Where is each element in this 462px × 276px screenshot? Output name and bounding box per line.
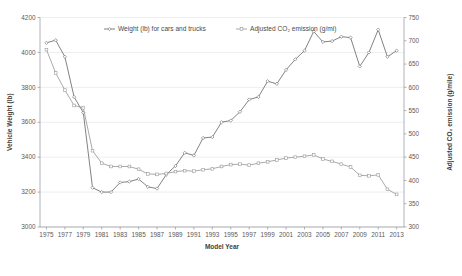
y-tick-label: 4200 bbox=[21, 14, 36, 21]
x-tick-label: 2013 bbox=[390, 231, 405, 238]
data-point-marker bbox=[285, 157, 288, 160]
data-point-marker bbox=[54, 72, 57, 75]
x-tick-label: 1985 bbox=[131, 231, 146, 238]
x-tick-label: 1999 bbox=[261, 231, 276, 238]
data-point-marker bbox=[377, 174, 380, 177]
y2-axis-ticks: 300350400450500550600650700750 bbox=[404, 14, 420, 231]
y2-tick-label: 700 bbox=[409, 37, 420, 44]
data-point-marker bbox=[386, 188, 389, 191]
y2-tick-label: 650 bbox=[409, 60, 420, 67]
x-tick-label: 2007 bbox=[334, 231, 349, 238]
data-point-marker bbox=[220, 165, 223, 168]
data-point-marker bbox=[358, 174, 361, 177]
data-point-marker bbox=[349, 166, 352, 169]
data-point-marker bbox=[165, 172, 168, 175]
legend-label: Adjusted CO₂ emission (g/mi) bbox=[250, 25, 336, 33]
y2-axis-title: Adjusted CO₂ emission (g/mile) bbox=[446, 74, 454, 171]
x-tick-label: 1991 bbox=[187, 231, 202, 238]
data-point-marker bbox=[174, 170, 177, 173]
x-tick-label: 1981 bbox=[95, 231, 110, 238]
data-point-marker bbox=[303, 155, 306, 158]
x-tick-label: 1995 bbox=[224, 231, 239, 238]
data-point-marker bbox=[156, 173, 159, 176]
chart-canvas: 3000320034003600380040004200300350400450… bbox=[0, 0, 462, 276]
data-point-marker bbox=[377, 28, 380, 31]
y-tick-label: 3600 bbox=[21, 118, 36, 125]
x-tick-label: 2005 bbox=[316, 231, 331, 238]
data-point-marker bbox=[239, 163, 242, 166]
data-point-marker bbox=[128, 180, 131, 183]
y-tick-label: 4000 bbox=[21, 49, 36, 56]
y2-tick-label: 500 bbox=[409, 130, 420, 137]
legend-marker bbox=[240, 28, 243, 31]
legend: Weight (lb) for cars and trucksAdjusted … bbox=[104, 25, 336, 33]
data-point-marker bbox=[91, 149, 94, 152]
x-tick-label: 1975 bbox=[39, 231, 54, 238]
data-point-marker bbox=[54, 39, 57, 42]
data-point-marker bbox=[63, 55, 66, 58]
data-point-marker bbox=[100, 190, 103, 193]
y2-tick-label: 550 bbox=[409, 107, 420, 114]
y2-tick-label: 400 bbox=[409, 177, 420, 184]
data-point-marker bbox=[211, 167, 214, 170]
y2-tick-label: 600 bbox=[409, 84, 420, 91]
data-point-marker bbox=[45, 48, 48, 51]
x-tick-label: 1989 bbox=[168, 231, 183, 238]
data-point-marker bbox=[73, 104, 76, 107]
dual-axis-line-chart: 3000320034003600380040004200300350400450… bbox=[0, 0, 462, 276]
x-tick-label: 1979 bbox=[76, 231, 91, 238]
y2-tick-label: 450 bbox=[409, 153, 420, 160]
data-point-marker bbox=[322, 158, 325, 161]
x-tick-label: 1977 bbox=[58, 231, 73, 238]
data-point-marker bbox=[340, 163, 343, 166]
data-point-marker bbox=[266, 160, 269, 163]
x-tick-label: 1997 bbox=[242, 231, 257, 238]
data-point-marker bbox=[257, 162, 260, 165]
data-point-marker bbox=[330, 39, 333, 42]
series-1 bbox=[45, 28, 398, 194]
data-point-marker bbox=[294, 156, 297, 159]
y-tick-label: 3800 bbox=[21, 84, 36, 91]
data-point-marker bbox=[137, 168, 140, 171]
y-tick-label: 3000 bbox=[21, 223, 36, 230]
x-tick-label: 2009 bbox=[353, 231, 368, 238]
data-point-marker bbox=[331, 160, 334, 163]
x-tick-label: 2011 bbox=[371, 231, 385, 238]
data-point-marker bbox=[192, 154, 195, 157]
y2-tick-label: 300 bbox=[409, 223, 420, 230]
data-point-marker bbox=[64, 89, 67, 92]
x-tick-label: 1983 bbox=[113, 231, 128, 238]
data-point-marker bbox=[275, 159, 278, 162]
data-point-marker bbox=[119, 165, 122, 168]
data-point-marker bbox=[340, 35, 343, 38]
x-tick-label: 2003 bbox=[297, 231, 312, 238]
y-tick-label: 3400 bbox=[21, 153, 36, 160]
data-point-marker bbox=[100, 162, 103, 165]
data-point-marker bbox=[193, 170, 196, 173]
x-tick-label: 1993 bbox=[205, 231, 220, 238]
y-tick-label: 3200 bbox=[21, 188, 36, 195]
data-point-marker bbox=[395, 193, 398, 196]
data-point-marker bbox=[183, 169, 186, 172]
x-tick-label: 1987 bbox=[150, 231, 165, 238]
data-point-marker bbox=[248, 164, 251, 167]
y2-tick-label: 750 bbox=[409, 14, 420, 21]
y-axis-title: Vehicle Weight (lb) bbox=[6, 93, 14, 151]
data-point-marker bbox=[202, 168, 205, 171]
x-tick-label: 2001 bbox=[279, 231, 294, 238]
data-point-marker bbox=[82, 106, 85, 109]
y2-tick-label: 350 bbox=[409, 200, 420, 207]
y-axis-ticks: 3000320034003600380040004200 bbox=[21, 14, 40, 231]
data-point-marker bbox=[312, 153, 315, 156]
data-point-marker bbox=[146, 173, 149, 176]
data-point-marker bbox=[45, 41, 48, 44]
data-point-marker bbox=[201, 136, 204, 139]
x-axis-ticks: 1975197719791981198319851987198919911993… bbox=[39, 227, 404, 238]
legend-label: Weight (lb) for cars and trucks bbox=[118, 25, 207, 33]
data-point-marker bbox=[110, 165, 113, 168]
x-axis-title: Model Year bbox=[205, 243, 240, 250]
legend-marker bbox=[108, 27, 111, 30]
data-point-marker bbox=[349, 36, 352, 39]
data-point-marker bbox=[128, 165, 131, 168]
data-point-marker bbox=[91, 186, 94, 189]
